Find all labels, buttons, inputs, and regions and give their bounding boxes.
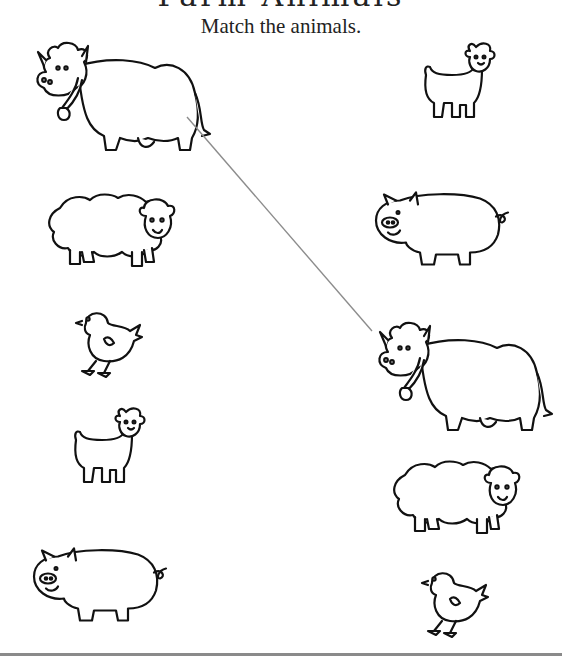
right-animal-pig[interactable] [370,184,515,274]
instruction-text: Match the animals. [0,14,562,39]
cow-icon [362,318,557,438]
chick-icon [418,565,498,640]
right-animal-sheep[interactable] [385,455,525,540]
cow-icon [20,38,215,158]
right-animal-chick[interactable] [418,565,498,640]
left-animal-goat[interactable] [62,405,152,495]
pig-icon [28,540,173,630]
sheep-icon [385,455,525,540]
left-animal-chick[interactable] [72,305,152,380]
worksheet-title: Farm Animals [0,0,562,13]
goat-icon [62,405,152,495]
sheep-icon [40,188,180,273]
chick-icon [72,305,152,380]
pig-icon [370,184,515,274]
right-animal-cow[interactable] [362,318,557,438]
goat-icon [412,40,502,130]
right-animal-goat[interactable] [412,40,502,130]
left-animal-pig[interactable] [28,540,173,630]
bottom-rule [0,653,562,656]
left-animal-cow[interactable] [20,38,215,158]
left-animal-sheep[interactable] [40,188,180,273]
